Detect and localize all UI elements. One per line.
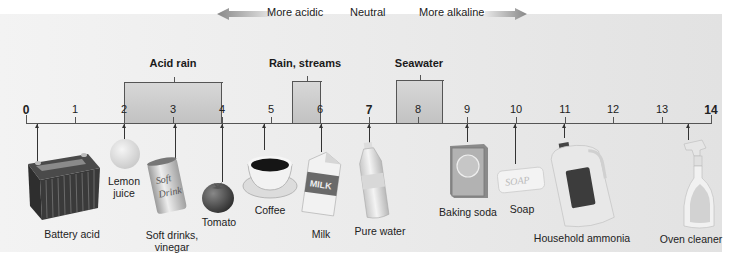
- household-ammonia-label: Household ammonia: [534, 232, 630, 244]
- more-alkaline-label: More alkaline: [419, 6, 484, 18]
- pointer-household-ammonia: [564, 124, 565, 138]
- lemon-juice-label-line1: Lemon: [108, 175, 140, 187]
- seawater-bracket: [396, 80, 444, 81]
- milk-carton-icon: MILK: [300, 148, 344, 218]
- tick-6: [320, 117, 321, 124]
- tick-12: [613, 117, 614, 124]
- tick-8: [418, 117, 419, 124]
- pure-water-label: Pure water: [355, 225, 406, 237]
- tomato-label: Tomato: [202, 216, 236, 228]
- tick-label-13: 13: [656, 103, 668, 115]
- more-acidic-label: More acidic: [267, 6, 323, 18]
- rain-streams-label: Rain, streams: [269, 57, 341, 69]
- soft-drink-can-icon: Soft Drink: [146, 156, 188, 216]
- pointer-baking-soda: [467, 124, 468, 142]
- seawater-bracket-left: [396, 80, 397, 123]
- water-bottle-icon: [357, 140, 391, 220]
- tick-7: [369, 117, 370, 124]
- tick-label-10: 10: [510, 103, 522, 115]
- coffee-label: Coffee: [255, 204, 286, 216]
- tick-9: [467, 117, 468, 124]
- rain-streams-range: [292, 81, 320, 123]
- seawater-label: Seawater: [395, 57, 443, 69]
- milk-label: Milk: [312, 228, 331, 240]
- tick-label-7: 7: [366, 103, 373, 117]
- oven-cleaner-label: Oven cleaner: [660, 233, 722, 245]
- seawater-range: [396, 80, 442, 123]
- tick-label-4: 4: [219, 103, 225, 115]
- coffee-cup-icon: [242, 150, 300, 200]
- baking-soda-label: Baking soda: [439, 206, 497, 218]
- tick-label-8: 8: [415, 103, 421, 115]
- soap-label: Soap: [510, 203, 535, 215]
- baking-soda-box-icon: [446, 142, 490, 200]
- tick-3: [173, 117, 174, 124]
- tick-label-5: 5: [268, 103, 274, 115]
- battery-acid-label: Battery acid: [44, 228, 99, 240]
- tomato-icon: [200, 178, 236, 214]
- tick-4: [222, 117, 223, 124]
- tick-1: [75, 117, 76, 124]
- seawater-bracket-right: [442, 80, 443, 123]
- lemon-icon: [109, 138, 141, 170]
- pointer-coffee: [264, 124, 265, 150]
- pointer-soap: [515, 124, 516, 164]
- battery-icon: [22, 150, 102, 222]
- rain-streams-bracket: [292, 81, 322, 82]
- neutral-label: Neutral: [350, 6, 385, 18]
- acid-rain-label: Acid rain: [149, 57, 196, 69]
- tick-13: [662, 117, 663, 124]
- tick-11: [565, 117, 566, 124]
- tick-label-11: 11: [559, 103, 570, 115]
- tick-label-2: 2: [121, 103, 127, 115]
- tick-label-6: 6: [317, 103, 323, 115]
- rain-streams-bracket-left: [292, 81, 293, 123]
- tick-2: [124, 117, 125, 124]
- tick-label-12: 12: [607, 103, 619, 115]
- ammonia-jug-icon: [548, 138, 620, 230]
- tick-label-1: 1: [72, 103, 78, 115]
- acid-rain-bracket: [124, 82, 223, 83]
- pointer-tomato: [222, 124, 223, 182]
- soft-drinks-label-line1: Soft drinks,: [146, 229, 199, 241]
- soft-drinks-label-line2: vinegar: [155, 241, 189, 253]
- tick-10: [516, 117, 517, 124]
- arrow-right-icon: [485, 8, 527, 20]
- soap-bar-icon: SOAP: [496, 165, 546, 195]
- spray-bottle-icon: [680, 138, 720, 232]
- tick-5: [271, 117, 272, 124]
- tick-label-9: 9: [464, 103, 470, 115]
- lemon-juice-label-line2: juice: [113, 187, 135, 199]
- tick-label-0: 0: [23, 103, 30, 117]
- arrow-left-icon: [217, 8, 273, 20]
- tick-label-3: 3: [170, 103, 176, 115]
- tick-label-14: 14: [704, 103, 717, 117]
